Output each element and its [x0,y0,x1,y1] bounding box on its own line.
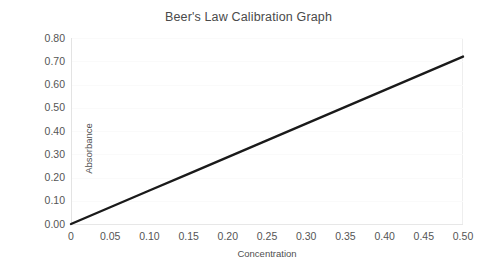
x-tick-label: 0 [68,230,74,242]
chart-title: Beer's Law Calibration Graph [0,10,497,24]
x-axis-tick-labels: 00.050.100.150.200.250.300.350.400.450.5… [71,230,463,244]
y-tick-label: 0.30 [29,149,65,160]
series-line-layer [71,38,463,224]
series-line [71,57,463,224]
x-tick-label: 0.25 [257,230,277,242]
x-axis-label: Concentration [71,248,463,259]
y-axis-tick-labels: 0.000.100.200.300.400.500.600.700.80 [27,38,65,224]
y-tick-label: 0.80 [29,33,65,44]
x-tick-label: 0.15 [178,230,198,242]
x-axis-line [71,224,463,225]
y-tick-label: 0.50 [29,102,65,113]
x-tick-label: 0.20 [218,230,238,242]
beers-law-chart: Beer's Law Calibration Graph 0.000.100.2… [0,0,497,272]
x-tick-label: 0.45 [414,230,434,242]
y-tick-label: 0.70 [29,56,65,67]
y-tick-label: 0.20 [29,172,65,183]
x-tick-label: 0.50 [453,230,473,242]
plot-area: Absorbance [71,38,463,224]
y-tick-label: 0.10 [29,195,65,206]
x-tick-label: 0.10 [139,230,159,242]
x-tick-label: 0.30 [296,230,316,242]
x-tick-label: 0.05 [100,230,120,242]
y-tick-label: 0.00 [29,219,65,230]
y-tick-label: 0.60 [29,79,65,90]
x-tick-label: 0.35 [335,230,355,242]
y-axis-label: Absorbance [83,109,94,189]
x-tick-label: 0.40 [374,230,394,242]
y-tick-label: 0.40 [29,126,65,137]
